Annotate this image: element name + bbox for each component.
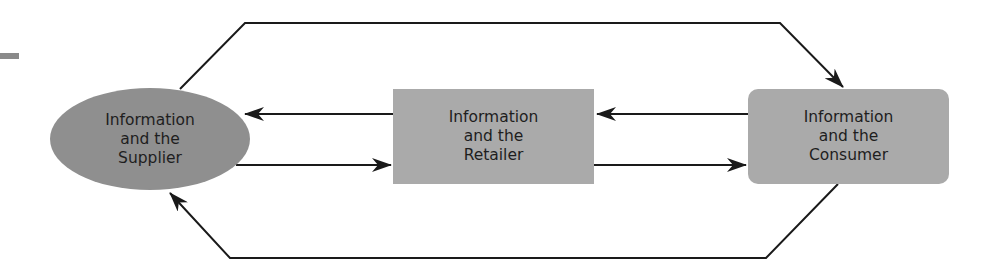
edge-consumer-to-supplier — [170, 184, 838, 258]
retailer-node: Information and the Retailer — [393, 89, 594, 184]
edge-supplier-to-consumer — [180, 23, 843, 89]
consumer-node: Information and the Consumer — [748, 89, 949, 184]
supplier-node: Information and the Supplier — [50, 88, 250, 190]
